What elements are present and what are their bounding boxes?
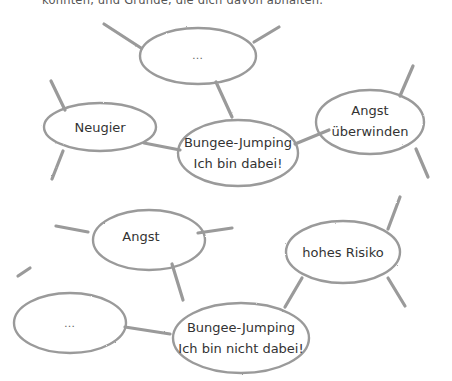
bubble-left-2-text: … <box>64 313 76 334</box>
center-1-line-2: Ich bin dabei! <box>184 153 292 174</box>
connectors-diagram-2 <box>18 197 405 334</box>
bubble-neugier-text: Neugier <box>74 117 125 138</box>
bubble-center-2-text: Bungee-Jumping Ich bin nicht dabei! <box>178 317 303 359</box>
center-1-line-1: Bungee-Jumping <box>184 132 292 153</box>
bubble-angst-text: Angst <box>122 226 159 247</box>
bubble-center-1-text: Bungee-Jumping Ich bin dabei! <box>184 132 292 174</box>
bubble-angst-ueberwinden-text: Angst überwinden <box>332 100 409 142</box>
angst-ueberwinden-line-2: überwinden <box>332 121 409 142</box>
angst-ueberwinden-line-1: Angst <box>332 100 409 121</box>
bubble-top-1-text: … <box>192 45 204 66</box>
bubble-hohes-risiko-text: hohes Risiko <box>302 242 383 263</box>
center-2-line-2: Ich bin nicht dabei! <box>178 338 303 359</box>
center-2-line-1: Bungee-Jumping <box>178 317 303 338</box>
